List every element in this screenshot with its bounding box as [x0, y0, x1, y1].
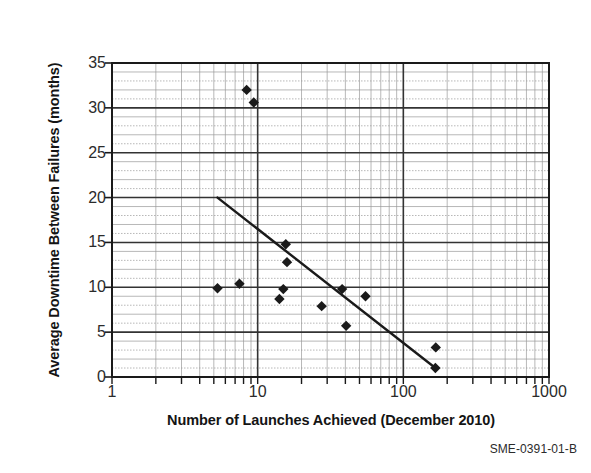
- minor-gridlines: [112, 63, 549, 377]
- data-point: [360, 291, 370, 301]
- data-point: [282, 257, 292, 267]
- chart-figure: Average Downtime Between Failures (month…: [0, 0, 591, 473]
- data-point: [241, 85, 251, 95]
- data-point: [316, 301, 326, 311]
- x-axis-tick-label: 100: [390, 383, 417, 401]
- x-axis-tick-label: 10: [249, 383, 267, 401]
- data-point: [341, 321, 351, 331]
- data-point: [431, 342, 441, 352]
- major-gridlines: [112, 63, 549, 377]
- figure-caption: SME-0391-01-B: [490, 442, 577, 456]
- x-axis-tick-label: 1: [108, 383, 117, 401]
- x-axis-label: Number of Launches Achieved (December 20…: [112, 412, 550, 428]
- data-points: [212, 85, 441, 374]
- x-axis-tick-label: 1000: [531, 383, 567, 401]
- plot-area: [0, 0, 591, 473]
- plot-frame: [112, 63, 549, 377]
- data-point: [274, 294, 284, 304]
- data-point: [278, 284, 288, 294]
